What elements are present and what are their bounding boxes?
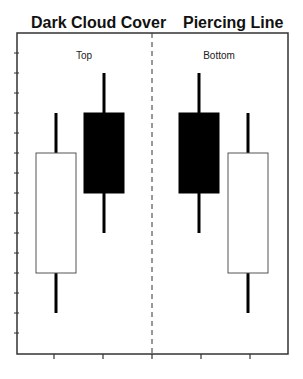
bullish-body (36, 153, 76, 273)
candlestick-chart: Top Bottom (0, 0, 303, 379)
bullish-body (228, 153, 268, 273)
bearish-body (84, 113, 124, 193)
left-panel-label: Top (76, 50, 93, 61)
bearish-body (179, 113, 219, 193)
candle (84, 73, 124, 233)
candle (36, 113, 76, 313)
candle (228, 113, 268, 313)
right-panel-label: Bottom (203, 50, 235, 61)
candle (179, 73, 219, 233)
